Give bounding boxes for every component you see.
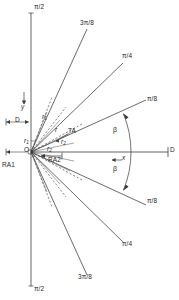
label-ra2: RA2 xyxy=(48,157,61,164)
label-radius-r2-lower: r2 xyxy=(47,146,52,154)
label-radius-r1-upper-sub: 1 xyxy=(44,116,47,121)
label-origin: O xyxy=(24,147,29,154)
label-radius-r2-mid-sub: 2 xyxy=(63,141,66,146)
label-ta: TA xyxy=(68,128,76,135)
label-vertical-axis-top: π/2 xyxy=(34,4,44,11)
label-beta-lower: β xyxy=(113,165,117,172)
label-vertical-axis-bottom: π/2 xyxy=(34,286,44,293)
ray-upper-3pi8 xyxy=(31,29,87,152)
label-angle-upper-pi4: π/4 xyxy=(122,53,132,60)
label-angle-upper-pi8: π/8 xyxy=(147,96,157,103)
ray-lower-3pi8 xyxy=(31,152,87,275)
ray-lower-pi4 xyxy=(31,152,123,242)
label-radius-r1-upper: r1 xyxy=(42,114,47,122)
label-radius-r2-mid: r2 xyxy=(61,139,66,147)
label-angle-lower-pi4: π/4 xyxy=(122,241,132,248)
beta-arc-upper xyxy=(123,114,131,152)
label-radius-r: r xyxy=(55,127,57,134)
label-angle-lower-pi8: π/8 xyxy=(147,198,157,205)
label-radius-r2-lower-sub: 2 xyxy=(49,148,52,153)
label-x-axis: x xyxy=(122,155,125,162)
label-ra1: RA1 xyxy=(2,162,15,169)
label-radius-r1-origin-sub: 1 xyxy=(26,140,29,145)
x-arrow-head xyxy=(112,158,116,162)
label-right-marker-axis: D xyxy=(170,147,175,154)
label-angle-lower-3pi8: 3π/8 xyxy=(78,274,92,281)
label-dim-d: D xyxy=(15,117,20,124)
ray-upper-pi4 xyxy=(31,63,123,152)
label-angle-upper-3pi8: 3π/8 xyxy=(80,20,94,27)
label-y-axis: y xyxy=(21,104,24,111)
label-beta-upper: β xyxy=(113,126,117,133)
label-radius-r1-origin: r1 xyxy=(24,138,29,146)
diagram-canvas: π/2 π/2 3π/8 π/4 π/8 π/8 π/4 3π/8 y x O … xyxy=(0,0,179,300)
